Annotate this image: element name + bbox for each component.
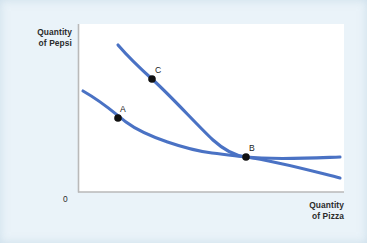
data-point-a	[114, 114, 122, 122]
origin-label: 0	[63, 194, 68, 204]
point-label-b: B	[249, 143, 255, 153]
data-point-b	[242, 153, 250, 161]
point-label-c: C	[155, 65, 161, 75]
x-axis-title: Quantity of Pizza	[286, 200, 344, 221]
point-label-a: A	[120, 104, 126, 114]
indifference-curve-figure: Quantity of Pepsi Quantity of Pizza 0 A …	[0, 0, 367, 243]
y-axis-title: Quantity of Pepsi	[14, 27, 72, 48]
data-point-c	[148, 75, 156, 83]
plot-area-background	[78, 24, 344, 192]
